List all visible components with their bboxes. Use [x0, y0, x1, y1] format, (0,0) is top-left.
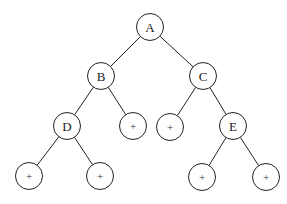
- tree-diagram: ABCD++E++++: [0, 0, 287, 204]
- tree-node-b: B: [88, 63, 115, 90]
- edge-a-b: [111, 37, 141, 67]
- edge-a-c: [160, 36, 193, 67]
- plus-icon: +: [26, 170, 32, 182]
- tree-svg: ABCD++E++++: [0, 0, 287, 204]
- node-label: A: [145, 20, 155, 35]
- edge-e-e_l: [209, 138, 226, 166]
- node-label: B: [97, 69, 106, 84]
- edge-c-e: [210, 88, 226, 115]
- tree-node-a: A: [137, 14, 164, 41]
- tree-node-d: D: [54, 113, 81, 140]
- tree-node-e: E: [220, 113, 247, 140]
- edge-d-d_r: [74, 137, 92, 164]
- node-label: D: [62, 119, 71, 134]
- plus-icon: +: [263, 171, 269, 183]
- node-label: E: [229, 119, 237, 134]
- edge-c-c_l: [177, 87, 195, 115]
- edge-b-b_r: [108, 87, 125, 114]
- edge-d-d_l: [37, 137, 59, 166]
- tree-leaf-node: +: [253, 164, 280, 191]
- plus-icon: +: [130, 120, 136, 132]
- edges-layer: [37, 36, 258, 166]
- tree-leaf-node: +: [189, 164, 216, 191]
- plus-icon: +: [199, 171, 205, 183]
- tree-leaf-node: +: [16, 163, 43, 190]
- tree-leaf-node: +: [157, 114, 184, 141]
- edge-e-e_r: [240, 137, 258, 165]
- nodes-layer: ABCD++E++++: [16, 14, 280, 191]
- plus-icon: +: [167, 121, 173, 133]
- plus-icon: +: [97, 170, 103, 182]
- edge-b-d: [75, 87, 94, 115]
- tree-node-c: C: [190, 63, 217, 90]
- tree-leaf-node: +: [87, 163, 114, 190]
- tree-leaf-node: +: [120, 113, 147, 140]
- node-label: C: [199, 69, 208, 84]
